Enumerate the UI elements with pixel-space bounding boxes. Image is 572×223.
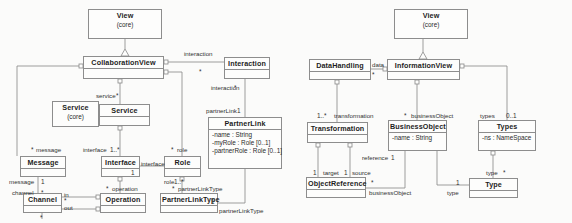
class-compartment-channel: [24, 205, 61, 213]
class-compartment-collaboration-view: [84, 68, 163, 76]
edge-label-message-end: message: [9, 178, 34, 185]
class-compartment-operation: [101, 205, 145, 213]
class-box-interaction[interactable]: Interaction: [224, 57, 270, 79]
class-name-operation: Operation: [101, 194, 145, 205]
multiplicity-type-star: *: [503, 169, 506, 176]
edge-label-businessobject-end: businessObject: [369, 189, 411, 196]
class-box-partner-link-type[interactable]: PartnerLinkType: [160, 193, 218, 213]
edge-label-transformation-role: transformation: [334, 112, 374, 119]
edge-label-partnerlink-role: partnerLink: [206, 107, 237, 114]
attribute-partnerlink-myrole: -myRole : Role [0..1]: [212, 139, 278, 147]
class-compartment-interaction: [225, 69, 269, 77]
edge-label-types-role: types: [480, 112, 495, 119]
class-compartment-type: [470, 190, 517, 198]
class-box-service[interactable]: Service: [99, 104, 150, 126]
edge-label-reference-role: reference: [362, 154, 388, 161]
edge-label-out: out: [64, 204, 73, 211]
class-box-data-handling[interactable]: DataHandling: [309, 59, 371, 80]
class-compartment-object-reference: [307, 189, 365, 197]
class-name-partner-link: PartnerLink: [209, 118, 281, 129]
class-compartment-data-handling: [310, 71, 370, 79]
multiplicity-plt-star: *: [172, 185, 175, 192]
class-box-object-reference[interactable]: ObjectReference: [306, 177, 366, 198]
multiplicity-transformation-1star: 1..*: [317, 112, 327, 119]
multiplicity-role-1star: 1..*: [174, 178, 184, 185]
edge-label-interface-end: interface: [141, 160, 165, 167]
class-name-role: Role: [165, 157, 200, 168]
class-compartment-partner-link-type: [161, 205, 217, 213]
multiplicity-message-1: 1: [41, 178, 45, 185]
class-box-message[interactable]: Message: [20, 156, 66, 177]
generalization-arrow-informationview: [419, 52, 427, 59]
class-compartment-service: [100, 116, 149, 124]
class-box-collaboration-view[interactable]: CollaborationView: [83, 56, 164, 79]
multiplicity-channel-star2: *: [64, 197, 67, 204]
class-compartment-message: [21, 168, 65, 176]
attribute-types-ns: -ns : NameSpace: [482, 134, 532, 142]
aggregation-diamond-dh-transformation: [335, 80, 339, 84]
multiplicity-reference-1: 1: [391, 154, 395, 161]
edge-label-source-role: source: [352, 169, 371, 176]
edge-label-operation-role: operation: [112, 185, 138, 192]
class-box-channel[interactable]: Channel: [23, 193, 62, 213]
edge-label-type-end: type: [447, 189, 459, 196]
multiplicity-interface-1star: 1..*: [110, 146, 120, 153]
class-box-type[interactable]: Type: [469, 178, 518, 198]
class-name-interface: Interface: [102, 157, 139, 168]
aggregation-diamond-cv-role: [164, 70, 168, 74]
multiplicity-partnerlink-1: 1: [237, 107, 241, 114]
class-attributes-business-object: -name : String: [389, 132, 446, 143]
edge-label-channel-end: channel: [12, 189, 34, 196]
class-box-information-view[interactable]: InformationView: [387, 59, 460, 80]
class-box-business-object[interactable]: BusinessObject -name : String: [388, 120, 447, 151]
class-box-transformation[interactable]: Transformation: [307, 122, 368, 143]
class-box-view-core-right[interactable]: View (core): [394, 9, 468, 39]
multiplicity-types-01: 0..1: [506, 112, 517, 119]
class-name-partner-link-type: PartnerLinkType: [161, 194, 217, 205]
edge-label-interaction-role: interaction: [184, 50, 213, 57]
class-name-service-core: Service: [53, 102, 98, 113]
class-box-partner-link[interactable]: PartnerLink -name : String -myRole : Rol…: [208, 117, 282, 169]
multiplicity-interaction-star: *: [199, 68, 202, 75]
attribute-businessobject-name: -name : String: [392, 134, 443, 142]
class-box-service-core[interactable]: Service (core): [52, 101, 99, 127]
multiplicity-target-1: 1: [313, 169, 317, 176]
multiplicity-channel-star3: *: [40, 214, 43, 221]
multiplicity-channel-star: *: [41, 189, 44, 196]
multiplicity-source-1: 1: [344, 169, 348, 176]
class-name-data-handling: DataHandling: [310, 60, 370, 71]
multiplicity-businessobject-star: *: [404, 112, 407, 119]
class-name-transformation: Transformation: [308, 123, 367, 134]
multiplicity-type-1: 1: [456, 179, 460, 186]
edge-label-partnerlinktype-end: partnerLinkType: [219, 207, 263, 214]
generalization-arrow-collaborationview: [121, 49, 129, 56]
aggregation-diamond-interface-operation: [118, 177, 122, 181]
edge-label-businessobject-role: businessObject: [411, 112, 453, 119]
class-compartment-role: [165, 168, 200, 176]
aggregation-diamond-cv-service: [118, 79, 122, 83]
class-name-types: Types: [479, 121, 535, 132]
multiplicity-operation-star: *: [106, 185, 109, 192]
class-box-role[interactable]: Role: [164, 156, 201, 177]
aggregation-diamond-service-interface: [118, 126, 122, 130]
class-name-object-reference: ObjectReference: [307, 178, 365, 189]
edge-label-message-role: message: [36, 146, 61, 153]
edge-label-service-role: service: [96, 92, 116, 99]
edge-label-target-role: target: [323, 169, 339, 176]
aggregation-diamond-tr-target: [316, 143, 320, 147]
attribute-partnerlink-name: -name : String: [212, 131, 278, 139]
aggregation-diamond-iv-bo: [415, 80, 419, 84]
class-box-operation[interactable]: Operation: [100, 193, 146, 213]
class-name-information-view: InformationView: [388, 60, 459, 71]
edge-label-role-role: role: [177, 146, 187, 153]
class-stereotype-service-core: (core): [53, 113, 98, 123]
class-box-types[interactable]: Types -ns : NameSpace: [478, 120, 536, 151]
class-name-interaction: Interaction: [225, 58, 269, 69]
class-name-type: Type: [470, 179, 517, 190]
edge-label-partnerlinktype-role: partnerLinkType: [178, 185, 222, 192]
class-box-view-core-left[interactable]: View (core): [88, 9, 162, 39]
class-name-collaboration-view: CollaborationView: [84, 57, 163, 68]
aggregation-diamond-cv-interaction: [164, 60, 168, 64]
class-name-view-left: View: [89, 10, 161, 21]
attribute-partnerlink-partnerrole: -partnerRole : Role [0..1]: [212, 147, 278, 155]
